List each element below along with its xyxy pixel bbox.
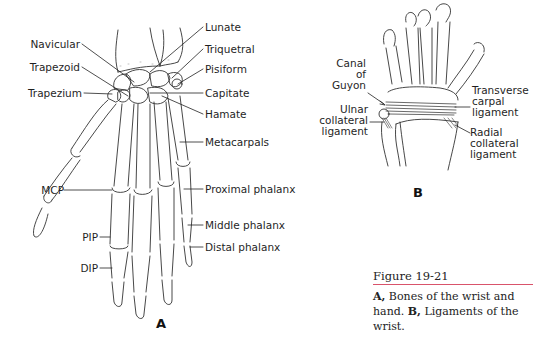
caption-b-marker: B, bbox=[408, 305, 421, 318]
label-metacarpals: Metacarpals bbox=[205, 136, 269, 148]
label-triquetral: Triquetral bbox=[205, 43, 255, 55]
label-pip: PIP bbox=[66, 231, 98, 243]
panel-letter-a: A bbox=[156, 316, 166, 331]
figure-number: Figure 19-21 bbox=[373, 269, 449, 283]
panel-b-wrist-ligaments bbox=[368, 4, 484, 170]
label-proximal-phalanx: Proximal phalanx bbox=[205, 183, 295, 195]
label-canal-of-guyon: Canal of Guyon bbox=[320, 58, 366, 91]
label-lunate: Lunate bbox=[205, 21, 241, 33]
panel-letter-b: B bbox=[413, 185, 423, 200]
label-mcp: MCP bbox=[34, 184, 64, 196]
label-hamate: Hamate bbox=[205, 108, 247, 120]
label-capitate: Capitate bbox=[205, 87, 249, 99]
figure-caption: A, Bones of the wrist and hand. B, Ligam… bbox=[373, 289, 543, 334]
label-ulnar-collateral-ligament: Ulnar collateral ligament bbox=[310, 104, 368, 137]
label-distal-phalanx: Distal phalanx bbox=[205, 241, 280, 253]
label-dip: DIP bbox=[66, 262, 98, 274]
label-trapezoid: Trapezoid bbox=[22, 61, 80, 73]
figure-page: Navicular Trapezoid Trapezium MCP PIP DI… bbox=[0, 0, 550, 344]
caption-a-marker: A, bbox=[373, 290, 385, 303]
label-trapezium: Trapezium bbox=[22, 87, 82, 99]
label-pisiform: Pisiform bbox=[205, 63, 247, 75]
label-navicular: Navicular bbox=[22, 38, 80, 50]
label-middle-phalanx: Middle phalanx bbox=[205, 219, 285, 231]
caption-divider bbox=[373, 284, 533, 285]
label-radial-collateral-ligament: Radial collateral ligament bbox=[470, 127, 519, 160]
label-transverse-carpal-ligament: Transverse carpal ligament bbox=[472, 85, 529, 118]
